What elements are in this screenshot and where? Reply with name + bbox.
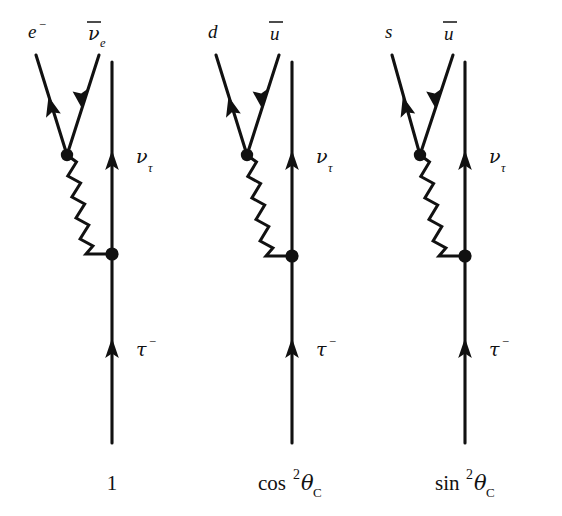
incoming-label-sup-0: − — [149, 335, 156, 349]
label-up-antiquark-1: u — [269, 22, 283, 44]
label-tau-1: τ − — [316, 335, 336, 360]
w-boson-zigzag-2 — [420, 155, 465, 256]
label-tau-neutrino-0: ν τ — [136, 145, 153, 175]
incoming-label-base-1: τ — [316, 338, 327, 360]
amplitude-label-2: sin 2 θ C — [435, 467, 495, 500]
outgoing-fermion-label-base-2: ν — [489, 145, 501, 167]
incoming-label-sup-2: − — [502, 335, 509, 349]
w-boson-zigzag-0 — [67, 155, 112, 254]
label-tau-0: τ − — [136, 335, 156, 360]
lower-vertex-dot-1 — [285, 249, 298, 262]
diagram-hadronic-decay-cabibbo-suppressed: s u ν τ τ − sin 2 θ C — [385, 21, 509, 500]
amplitude-sub-2: C — [486, 485, 495, 500]
branch-right-label-base-1: u — [270, 23, 280, 44]
diagram-leptonic-decay: e − ν e ν τ τ − 1 — [28, 18, 156, 495]
branch-left-label-base-2: s — [385, 21, 392, 42]
incoming-label-sup-1: − — [329, 335, 336, 349]
amplitude-sup-1: 2 — [293, 467, 300, 482]
label-tau-neutrino-1: ν τ — [316, 145, 333, 175]
branch-left-label-sup-0: − — [39, 18, 46, 32]
incoming-label-base-0: τ — [136, 338, 147, 360]
branch-right-label-sub-0: e — [100, 36, 106, 50]
amplitude-sub-1: C — [313, 485, 322, 500]
label-strange-quark-2: s — [385, 21, 392, 42]
amplitude-label-1: cos 2 θ C — [258, 467, 322, 500]
diagram-hadronic-decay-cabibbo-favored: d u ν τ τ − cos 2 θ C — [208, 21, 336, 500]
branch-left-label-base-0: e — [28, 21, 36, 42]
label-tau-neutrino-2: ν τ — [489, 145, 506, 175]
lower-vertex-dot-0 — [105, 247, 118, 260]
branch-left-label-base-1: d — [208, 21, 218, 42]
feynman-diagram-canvas: e − ν e ν τ τ − 1 — [0, 0, 562, 516]
branch-right-label-base-2: u — [444, 23, 454, 44]
label-up-antiquark-2: u — [443, 22, 457, 44]
amplitude-sup-2: 2 — [466, 467, 473, 482]
outgoing-fermion-label-sub-1: τ — [328, 161, 333, 175]
incoming-label-base-2: τ — [489, 338, 500, 360]
label-electron-antineutrino-0: ν e — [87, 22, 106, 50]
upper-vertex-dot-1 — [241, 149, 253, 161]
label-down-quark-1: d — [208, 21, 218, 42]
amplitude-base-1: cos — [258, 471, 286, 495]
outgoing-fermion-label-base-1: ν — [316, 145, 328, 167]
outgoing-fermion-label-sub-0: τ — [148, 161, 153, 175]
feynman-figure: e − ν e ν τ τ − 1 — [0, 0, 562, 516]
branch-right-label-base-0: ν — [88, 22, 100, 44]
outgoing-fermion-label-sub-2: τ — [501, 161, 506, 175]
amplitude-base-0: 1 — [107, 471, 118, 495]
amplitude-label-0: 1 — [107, 471, 118, 495]
amplitude-base-2: sin — [435, 471, 460, 495]
lower-vertex-dot-2 — [458, 249, 471, 262]
label-tau-2: τ − — [489, 335, 509, 360]
w-boson-zigzag-1 — [247, 155, 292, 256]
label-electron-0: e − — [28, 18, 46, 42]
upper-vertex-dot-2 — [414, 149, 426, 161]
outgoing-fermion-label-base-0: ν — [136, 145, 148, 167]
upper-vertex-dot-0 — [61, 149, 73, 161]
